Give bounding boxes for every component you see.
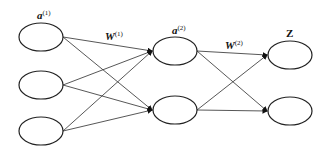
- layer-input: [19, 23, 63, 145]
- edge: [63, 51, 152, 85]
- edges-w1: [63, 37, 152, 131]
- edges-w2: [197, 51, 267, 111]
- edge: [197, 51, 267, 55]
- label-w1: W(1): [105, 30, 124, 42]
- label-w2: W(2): [225, 39, 244, 51]
- output-node-1: [268, 41, 312, 69]
- input-node-1: [19, 23, 63, 51]
- input-node-2: [19, 71, 63, 99]
- hidden-node-2: [153, 96, 197, 124]
- layer-hidden: [153, 37, 197, 124]
- edge: [63, 37, 152, 110]
- edge: [63, 110, 152, 131]
- neural-network-diagram: a(1) W(1) a(2) W(2) Z: [0, 0, 330, 157]
- label-z: Z: [286, 27, 293, 39]
- label-a1: a(1): [37, 9, 51, 21]
- layer-output: [268, 41, 312, 125]
- input-node-3: [19, 117, 63, 145]
- label-a2: a(2): [172, 24, 186, 36]
- edge: [63, 51, 152, 131]
- output-node-2: [268, 97, 312, 125]
- edge: [197, 110, 267, 111]
- edge: [63, 85, 152, 110]
- hidden-node-1: [153, 37, 197, 65]
